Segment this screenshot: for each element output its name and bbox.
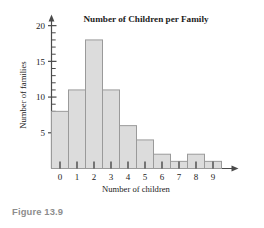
x-tick-label: 5 bbox=[143, 172, 148, 182]
histogram-bar bbox=[103, 90, 120, 169]
y-tick-label: 20 bbox=[36, 21, 46, 31]
x-tick-label: 1 bbox=[75, 172, 80, 182]
x-axis-tick-labels: 0123456789 bbox=[58, 172, 216, 182]
histogram-bar bbox=[86, 40, 103, 169]
x-tick-label: 2 bbox=[92, 172, 97, 182]
histogram-bar bbox=[69, 90, 86, 169]
x-tick-label: 4 bbox=[126, 172, 131, 182]
x-tick-label: 8 bbox=[194, 172, 199, 182]
x-tick-label: 9 bbox=[211, 172, 216, 182]
y-tick-label: 15 bbox=[36, 57, 46, 67]
y-tick-label: 5 bbox=[41, 128, 46, 138]
bars-group bbox=[52, 40, 222, 169]
x-tick-label: 7 bbox=[177, 172, 182, 182]
y-axis-tick-labels: 5101520 bbox=[36, 21, 46, 138]
x-tick-label: 6 bbox=[160, 172, 165, 182]
y-axis-label: Number of families bbox=[18, 61, 28, 129]
histogram-chart: Number of Children per Family Number of … bbox=[0, 0, 264, 228]
histogram-bar bbox=[52, 111, 69, 168]
figure-caption: Figure 13.9 bbox=[12, 206, 63, 217]
x-axis-arrowhead bbox=[232, 166, 239, 172]
x-tick-label: 3 bbox=[109, 172, 114, 182]
y-tick-label: 10 bbox=[36, 92, 46, 102]
x-tick-label: 0 bbox=[58, 172, 63, 182]
chart-title: Number of Children per Family bbox=[83, 14, 208, 24]
figure-container: Number of Children per Family Number of … bbox=[0, 0, 264, 228]
x-axis-label: Number of children bbox=[102, 184, 170, 194]
y-axis-arrowhead bbox=[49, 15, 55, 22]
